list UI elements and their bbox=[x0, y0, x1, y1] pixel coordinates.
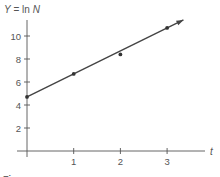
y-tick-label: 6 bbox=[16, 77, 21, 88]
y-tick-label: 4 bbox=[16, 100, 21, 111]
fit-line-arrowhead bbox=[176, 20, 183, 25]
chart: 246810 123 Y = ln N t Figure bbox=[0, 0, 220, 177]
figure-caption: Figure bbox=[3, 174, 31, 177]
x-tick-label: 1 bbox=[71, 156, 76, 167]
x-axis-title: t bbox=[210, 146, 214, 157]
y-tick-label: 8 bbox=[16, 54, 21, 65]
y-tick-label: 10 bbox=[10, 31, 21, 42]
y-axis-title-op: = ln bbox=[11, 4, 33, 15]
y-axis-title: Y = ln N bbox=[4, 4, 41, 15]
data-point bbox=[119, 53, 123, 57]
data-point bbox=[165, 26, 169, 30]
data-point bbox=[25, 95, 29, 99]
y-tick-label: 2 bbox=[16, 123, 21, 134]
x-tick-label: 3 bbox=[164, 156, 169, 167]
y-axis-title-n: N bbox=[33, 4, 41, 15]
series bbox=[27, 20, 183, 97]
x-tick-label: 2 bbox=[118, 156, 123, 167]
fit-line bbox=[27, 20, 183, 97]
data-point bbox=[72, 72, 76, 76]
